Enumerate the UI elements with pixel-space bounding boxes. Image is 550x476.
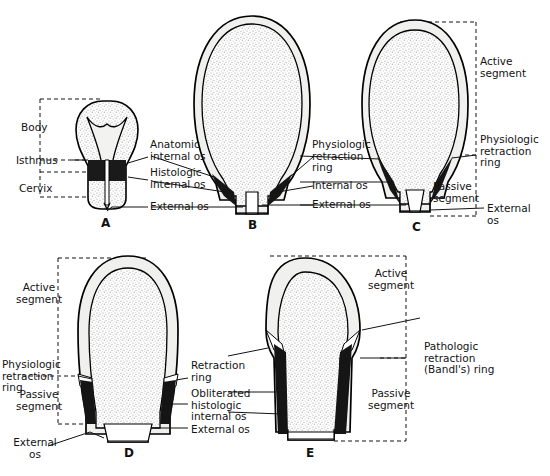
panel-letter-c: C — [412, 220, 421, 234]
panel-letter-b: B — [248, 218, 257, 232]
label-pathologic-retraction-ring: Pathologic retraction (Bandl's) ring — [424, 341, 494, 376]
panel-d-uterine-cavity — [89, 268, 167, 436]
panel-d-cervical-canal — [104, 424, 152, 442]
label-internal-os: Internal os — [312, 180, 368, 192]
label-physiologic-retraction-ring-c2: Physiologic retraction ring — [480, 134, 539, 169]
panel-letter-e: E — [306, 446, 314, 460]
label-active-segment-d: Active segment — [6, 282, 72, 305]
panel-b-cervical-canal — [246, 192, 258, 214]
label-passive-segment-d: Passive segment — [6, 389, 72, 412]
label-active-segment-e: Active segment — [355, 268, 427, 291]
label-body: Body — [21, 122, 48, 134]
label-passive-segment-e: Passive segment — [355, 388, 427, 411]
label-histologic-internal-os: Histologic internal os — [150, 167, 206, 190]
label-isthmus: Isthmus — [16, 155, 58, 167]
label-external-os-d: External os — [4, 437, 66, 460]
label-external-os-d2: External os — [191, 424, 250, 436]
label-retraction-ring: Retraction ring — [191, 360, 245, 383]
label-obliterated-histologic-internal-os: Obliterated histologic internal os — [191, 388, 250, 423]
label-external-os-c: External os — [487, 203, 531, 226]
label-active-segment-c: Active segment — [480, 56, 526, 79]
label-physiologic-retraction-ring-c: Physiologic retraction ring — [312, 139, 371, 174]
label-passive-segment-c: Passive segment — [433, 181, 479, 204]
label-anatomic-internal-os: Anatomic internal os — [150, 139, 206, 162]
panel-letter-a: A — [101, 216, 110, 230]
label-external-os-b: External os — [312, 199, 371, 211]
panel-letter-d: D — [124, 446, 134, 460]
label-external-os-a: External os — [150, 201, 209, 213]
uterine-retraction-ring-figure — [0, 0, 550, 476]
label-cervix: Cervix — [19, 183, 52, 195]
panel-a-cervical-canal — [105, 160, 109, 205]
